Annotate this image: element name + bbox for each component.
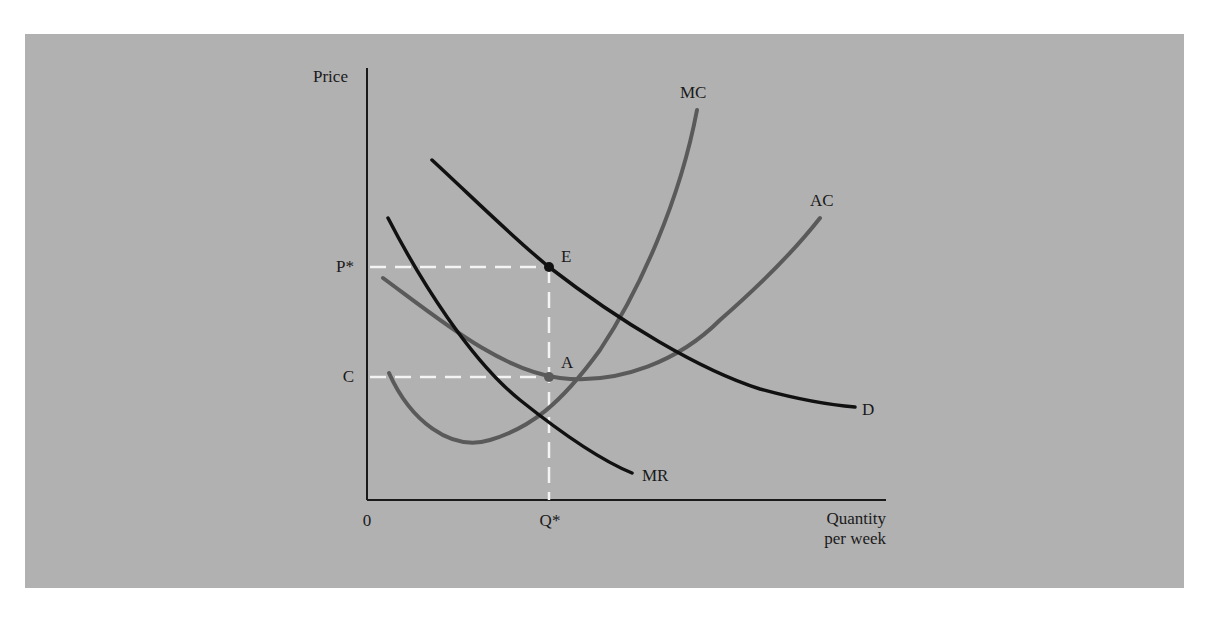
mr-curve-label: MR: [642, 467, 668, 486]
ac-curve-label: AC: [810, 192, 834, 211]
mc-curve-label: MC: [680, 84, 706, 103]
ac-curve: [383, 218, 820, 379]
c-tick-label: C: [322, 368, 354, 387]
x-axis-label-line2: per week: [800, 530, 886, 549]
x-axis-label-line1: Quantity: [800, 510, 886, 529]
point-e-marker: [544, 262, 554, 272]
p-star-tick-label: P*: [322, 258, 354, 277]
demand-curve-label: D: [862, 401, 874, 420]
mc-curve: [389, 110, 697, 443]
point-a-label: A: [561, 354, 573, 373]
q-star-tick-label: Q*: [532, 512, 568, 531]
y-axis-label: Price: [313, 68, 348, 87]
monopoly-diagram: [0, 0, 1214, 622]
origin-label: 0: [355, 512, 379, 531]
point-e-label: E: [561, 248, 571, 267]
point-a-marker: [544, 372, 554, 382]
